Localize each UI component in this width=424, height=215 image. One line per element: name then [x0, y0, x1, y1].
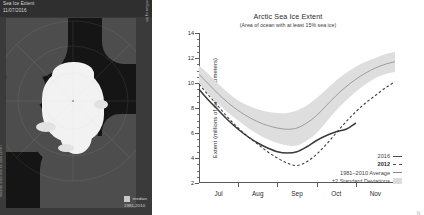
- y-tick-label: 12: [188, 55, 194, 61]
- legend-key-stddev-icon: [393, 178, 402, 184]
- x-tick-label: Aug: [252, 190, 263, 197]
- map-plate: [6, 18, 136, 208]
- y-tick-label: 4: [191, 155, 194, 161]
- y-tick-label: 2: [191, 180, 194, 186]
- x-tick-label: Nov: [370, 190, 381, 197]
- median-legend-label: median: [133, 196, 147, 202]
- legend-label-stddev: ±2 Standard Deviations: [332, 177, 390, 185]
- legend-row-stddev: ±2 Standard Deviations: [332, 177, 402, 185]
- map-credit: National Snow and Ice Data Center: [0, 145, 3, 197]
- legend-key-2012-icon: [393, 164, 402, 165]
- median-swatch-icon: [124, 196, 130, 202]
- chart-credit: National Snow and Ice Data Center, Bould…: [417, 211, 421, 215]
- legend-row-average: 1981–2010 Average: [332, 169, 402, 177]
- x-tick-label: Jul: [215, 190, 223, 197]
- legend-label-average: 1981–2010 Average: [340, 169, 390, 177]
- legend-row-2012: 2012: [332, 160, 402, 168]
- sea-ice-chart-panel: Arctic Sea Ice Extent (Area of ocean wit…: [152, 0, 424, 215]
- chart-legend: 2016 2012 1981–2010 Average ±2 Standard …: [332, 152, 402, 185]
- legend-key-2016-icon: [393, 156, 402, 157]
- y-tick: [195, 183, 199, 184]
- y-tick-label: 6: [191, 130, 194, 136]
- legend-label-2016: 2016: [378, 152, 390, 160]
- median-legend-row: median: [124, 196, 147, 202]
- legend-label-2012: 2012: [378, 160, 390, 168]
- map-title: Sea Ice Extent: [3, 1, 34, 7]
- map-side-label: Total extent = 8.6 million sq km: [145, 0, 149, 22]
- figure-root: Sea Ice Extent 11/07/2016: [0, 0, 424, 215]
- y-tick-label: 14: [188, 30, 194, 36]
- x-tick: [238, 183, 239, 187]
- legend-row-2016: 2016: [332, 152, 402, 160]
- y-tick-label: 10: [188, 80, 194, 86]
- legend-key-average-icon: [393, 172, 402, 173]
- chart-subtitle: (Area of ocean with at least 15% sea ice…: [152, 22, 424, 28]
- median-legend-years: 1981-2010: [124, 203, 147, 210]
- sea-ice-map-panel: Sea Ice Extent 11/07/2016: [0, 0, 152, 215]
- y-tick-label: 8: [191, 105, 194, 111]
- x-tick-label: Sep: [291, 190, 302, 197]
- chart-title: Arctic Sea Ice Extent: [152, 12, 424, 21]
- map-date: 11/07/2016: [3, 8, 27, 14]
- std-dev-band: [199, 52, 395, 146]
- x-tick-label: Oct: [331, 190, 341, 197]
- x-tick: [277, 183, 278, 187]
- map-graticule: [6, 18, 136, 208]
- map-legend: median 1981-2010: [124, 196, 147, 210]
- x-tick: [317, 183, 318, 187]
